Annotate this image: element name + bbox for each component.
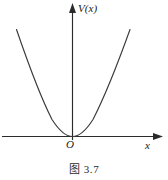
x-axis-arrow-icon xyxy=(153,133,163,140)
y-axis-label: V(x) xyxy=(78,3,97,14)
figure-container: V(x) x O 图 3.7 xyxy=(0,0,168,180)
figure-caption: 图 3.7 xyxy=(0,160,168,176)
x-axis-label: x xyxy=(145,140,150,151)
parabola-plot xyxy=(0,0,168,158)
origin-label: O xyxy=(66,139,74,150)
parabola-curve xyxy=(17,30,131,137)
y-axis-arrow-icon xyxy=(69,3,76,13)
